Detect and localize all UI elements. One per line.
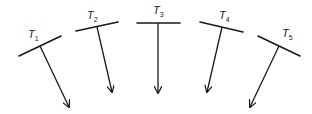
marker-t5: T5 (250, 27, 300, 107)
t5-label: T5 (282, 27, 293, 41)
t1-arrow-icon (40, 46, 69, 107)
t2-label: T2 (87, 9, 98, 23)
t4-label: T4 (219, 9, 230, 23)
t-marker-arc-diagram: T1 T2 T3 T4 T5 (0, 0, 312, 114)
t3-label: T3 (153, 4, 164, 18)
t2-arrow-icon (97, 27, 112, 92)
t4-arrow-icon (207, 27, 222, 92)
marker-t2: T2 (76, 9, 118, 92)
marker-t3: T3 (137, 4, 180, 93)
t5-arrow-icon (250, 46, 279, 107)
t1-label: T1 (28, 28, 39, 42)
marker-t4: T4 (200, 9, 243, 92)
marker-t1: T1 (19, 28, 69, 107)
